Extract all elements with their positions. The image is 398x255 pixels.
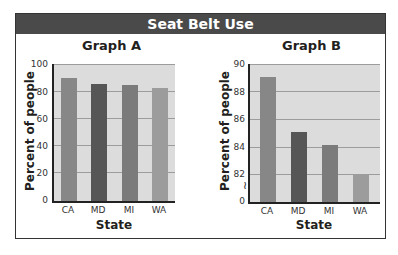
graph-b-plot-area: [248, 64, 380, 204]
graph-b-ytick: 86: [223, 114, 245, 124]
bar-graph-a-wa: [152, 88, 168, 201]
graph-a-ytick: 40: [26, 141, 48, 151]
graph-a-xtick: MI: [117, 205, 141, 215]
graph-a-ytick: 100: [26, 59, 48, 69]
bar-graph-a-mi: [122, 85, 138, 201]
axis-break-icon: ≀: [243, 181, 247, 191]
graph-a-title: Graph A: [82, 38, 141, 53]
graph-b-title: Graph B: [282, 38, 341, 53]
graph-b-x-axis-label: State: [284, 218, 344, 232]
graph-b-xtick: WA: [348, 206, 372, 216]
graph-a-ytick: 0: [26, 195, 48, 205]
graph-a-ytick: 20: [26, 168, 48, 178]
graph-b-ytick: 0: [223, 196, 245, 206]
graph-b-ytick: 84: [223, 142, 245, 152]
bar-graph-b-md: [291, 132, 307, 202]
graph-b-y-axis-label: Percent of people: [218, 61, 232, 201]
bar-graph-b-mi: [322, 145, 338, 202]
graph-a-y-axis-label: Percent of people: [23, 61, 37, 201]
graph-b-ytick: 82: [223, 169, 245, 179]
chart-header: Seat Belt Use: [16, 14, 385, 34]
graph-b-xtick: MI: [317, 206, 341, 216]
bar-graph-a-md: [91, 84, 107, 201]
graph-a-xtick: CA: [56, 205, 80, 215]
graph-a-ytick: 60: [26, 114, 48, 124]
bar-graph-b-ca: [260, 77, 276, 202]
graph-a-xtick: WA: [147, 205, 171, 215]
bar-graph-a-ca: [61, 78, 77, 201]
bar-graph-b-wa: [353, 174, 369, 202]
gridline: [250, 64, 380, 65]
graph-b-ytick: 88: [223, 87, 245, 97]
gridline: [54, 64, 175, 65]
graph-a-plot-area: [52, 64, 175, 203]
graph-a-x-axis-label: State: [84, 218, 144, 232]
graph-b-xtick: CA: [255, 206, 279, 216]
graph-b-xtick: MD: [286, 206, 310, 216]
graph-b-ytick: 90: [223, 59, 245, 69]
graph-a-xtick: MD: [86, 205, 110, 215]
graph-a-ytick: 80: [26, 87, 48, 97]
